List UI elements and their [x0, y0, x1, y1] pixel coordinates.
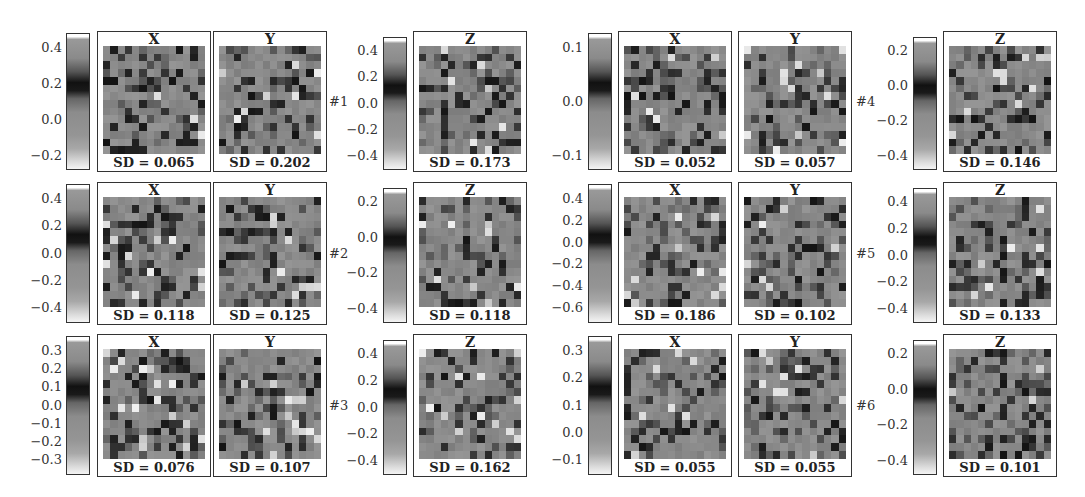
colorbar-tick: 0.4 [41, 191, 62, 204]
panel-title: Z [944, 335, 1056, 349]
z-colorbar [383, 340, 407, 475]
colorbar-tick-labels: 0.40.20.0−0.2 [12, 33, 62, 168]
panel-title: X [98, 335, 210, 349]
heatmap-panel-z: ZSD = 0.118 [413, 182, 527, 325]
colorbar-tick-labels: 0.40.20.0−0.2−0.4 [858, 188, 908, 321]
panel-title: Y [214, 32, 326, 46]
sd-label: SD = 0.118 [414, 307, 526, 324]
colorbar-tick: 0.4 [357, 347, 378, 360]
sd-label: SD = 0.057 [739, 154, 851, 171]
panel-title: X [619, 183, 731, 197]
sd-label: SD = 0.065 [98, 154, 210, 171]
colorbar-tick: 0.0 [887, 79, 908, 92]
heatmap-grid [744, 46, 846, 154]
panel-title: Z [944, 32, 1056, 46]
colorbar-tick: −0.3 [30, 453, 62, 466]
heatmap-panel-x: XSD = 0.076 [97, 334, 211, 477]
heatmap-panel-y: YSD = 0.102 [738, 182, 852, 325]
heatmap-grid [419, 197, 521, 307]
xy-colorbar [588, 336, 612, 475]
sd-label: SD = 0.173 [414, 154, 526, 171]
panel-title: Z [414, 183, 526, 197]
colorbar-tick-labels: 0.40.20.0−0.2−0.4−0.6 [533, 184, 583, 321]
colorbar-tick-labels: 0.20.0−0.2−0.4 [858, 340, 908, 473]
heatmap-grid [219, 349, 321, 459]
colorbar-tick: 0.2 [41, 361, 62, 374]
colorbar-tick: 0.1 [41, 380, 62, 393]
heatmap-panel-x: XSD = 0.186 [618, 182, 732, 325]
sd-label: SD = 0.052 [619, 154, 731, 171]
heatmap-grid [949, 349, 1051, 459]
colorbar-tick: −0.6 [551, 301, 583, 314]
colorbar-tick: −0.2 [876, 275, 908, 288]
heatmap-grid [419, 349, 521, 459]
colorbar-tick: −0.1 [30, 416, 62, 429]
colorbar-tick: 0.0 [887, 382, 908, 395]
colorbar-tick: −0.4 [876, 301, 908, 314]
sd-label: SD = 0.102 [739, 307, 851, 324]
colorbar-tick: 0.2 [887, 221, 908, 234]
heatmap-grid [219, 46, 321, 154]
panel-title: Y [214, 183, 326, 197]
colorbar-tick: −0.1 [551, 453, 583, 466]
panel-title: Z [944, 183, 1056, 197]
colorbar-tick: 0.4 [562, 191, 583, 204]
z-colorbar [913, 188, 937, 323]
colorbar-tick: 0.1 [562, 40, 583, 53]
colorbar-tick: 0.2 [887, 347, 908, 360]
sd-label: SD = 0.202 [214, 154, 326, 171]
sd-label: SD = 0.162 [414, 459, 526, 476]
colorbar-tick: 0.0 [562, 425, 583, 438]
colorbar-tick: 0.2 [41, 76, 62, 89]
colorbar-tick: 0.0 [357, 96, 378, 109]
heatmap-grid [103, 197, 205, 307]
colorbar-tick: 0.0 [41, 112, 62, 125]
colorbar-tick: −0.2 [346, 427, 378, 440]
colorbar-tick: −0.1 [551, 148, 583, 161]
heatmap-panel-y: YSD = 0.125 [213, 182, 327, 325]
z-colorbar [383, 37, 407, 170]
panel-title: Y [214, 335, 326, 349]
colorbar-tick-labels: 0.20.0−0.2−0.4 [328, 188, 378, 321]
heatmap-grid [624, 349, 726, 459]
panel-title: Y [739, 183, 851, 197]
panel-title: X [619, 32, 731, 46]
xy-colorbar [588, 33, 612, 170]
heatmap-grid [103, 349, 205, 459]
colorbar-tick-labels: 0.40.20.0−0.2−0.4 [328, 340, 378, 473]
heatmap-panel-x: XSD = 0.052 [618, 31, 732, 172]
colorbar-tick: −0.2 [876, 113, 908, 126]
panel-title: Y [739, 335, 851, 349]
heatmap-panel-y: YSD = 0.057 [738, 31, 852, 172]
colorbar-tick: −0.4 [876, 453, 908, 466]
heatmap-panel-z: ZSD = 0.173 [413, 31, 527, 172]
panel-title: Z [414, 32, 526, 46]
colorbar-tick: 0.0 [357, 400, 378, 413]
colorbar-tick: −0.2 [551, 257, 583, 270]
panel-title: X [98, 183, 210, 197]
colorbar-tick-labels: 0.10.0−0.1 [533, 33, 583, 168]
colorbar-tick: −0.2 [30, 435, 62, 448]
heatmap-grid [624, 197, 726, 307]
heatmap-panel-x: XSD = 0.055 [618, 334, 732, 477]
z-colorbar [383, 188, 407, 323]
colorbar-tick-labels: 0.30.20.10.0−0.1−0.2−0.3 [12, 336, 62, 473]
colorbar-tick: −0.4 [30, 301, 62, 314]
colorbar-tick: 0.2 [357, 373, 378, 386]
colorbar-tick: 0.0 [41, 398, 62, 411]
colorbar-tick: 0.3 [562, 343, 583, 356]
colorbar-tick: −0.4 [551, 279, 583, 292]
colorbar-tick: 0.2 [41, 219, 62, 232]
heatmap-grid [949, 197, 1051, 307]
colorbar-tick: −0.4 [346, 453, 378, 466]
colorbar-tick: 0.0 [41, 246, 62, 259]
heatmap-panel-z: ZSD = 0.101 [943, 334, 1057, 477]
sd-label: SD = 0.055 [739, 459, 851, 476]
colorbar-tick: 0.2 [562, 213, 583, 226]
heatmap-panel-z: ZSD = 0.146 [943, 31, 1057, 172]
panel-title: Y [739, 32, 851, 46]
sd-label: SD = 0.146 [944, 154, 1056, 171]
panel-title: Z [414, 335, 526, 349]
colorbar-tick: 0.2 [357, 195, 378, 208]
colorbar-tick: −0.4 [346, 301, 378, 314]
